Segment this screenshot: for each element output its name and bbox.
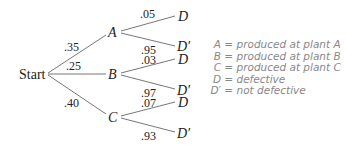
legend-text: = produced at plant A <box>224 38 340 50</box>
legend-text: = produced at plant C <box>224 61 340 73</box>
legend-text: = defective <box>224 73 285 85</box>
prob-a-d: .05 <box>140 7 155 21</box>
legend-row-dprime: D′ = not defective <box>209 85 341 97</box>
legend-symbol: D′ <box>209 85 221 97</box>
leaf-c-d: D <box>177 95 188 110</box>
prob-c-d: .07 <box>141 96 156 110</box>
leaf-a-d: D <box>177 9 188 24</box>
leaf-b-d: D <box>177 52 188 67</box>
prob-a: .35 <box>64 40 79 54</box>
start-label: Start <box>19 67 46 82</box>
prob-c: .40 <box>64 96 79 110</box>
leaf-c-dprime: D′ <box>176 126 191 141</box>
legend: A = produced at plant A B = produced at … <box>209 39 341 97</box>
legend-text: = not defective <box>224 84 305 96</box>
legend-text: = produced at plant B <box>224 50 340 62</box>
node-a: A <box>107 25 117 40</box>
legend-symbol: A <box>209 39 221 51</box>
prob-c-dprime: .93 <box>141 129 156 143</box>
prob-b-d: .03 <box>141 53 156 67</box>
prob-b: .25 <box>66 59 81 73</box>
node-b: B <box>108 67 117 82</box>
probability-tree: Start A B C .35 .25 .40 D D′ D D′ D D′ .… <box>0 0 200 149</box>
node-c: C <box>108 110 118 125</box>
